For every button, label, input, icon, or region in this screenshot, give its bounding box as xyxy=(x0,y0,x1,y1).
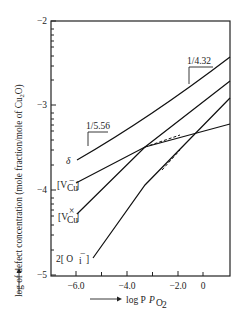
svg-text:]: ] xyxy=(76,180,79,190)
label-oi: 2[ O − i ] xyxy=(56,249,89,266)
x-axis-ticks xyxy=(76,271,203,276)
svg-text:log P: log P xyxy=(126,295,146,305)
label-vcu-charged: [V − Cu ] xyxy=(57,176,79,193)
svg-text:]: ] xyxy=(76,212,79,222)
x-tick-label: −2.0 xyxy=(169,281,186,291)
y-tick-label: −5 xyxy=(37,270,47,280)
y-axis-ticks xyxy=(51,21,56,275)
y-axis-label: log of defect concentration (mole fracti… xyxy=(14,84,25,297)
x-tick-label: 0 xyxy=(201,281,206,291)
dashed-oi xyxy=(162,150,180,170)
svg-text:2[ O: 2[ O xyxy=(56,254,73,264)
dashed-upper xyxy=(145,135,180,147)
x-tick-label: −6.0 xyxy=(67,281,84,291)
slope-triangle-high xyxy=(189,67,213,84)
x-axis-label: log P P O 2 xyxy=(90,295,167,310)
x-tick-label: −4.0 xyxy=(118,281,135,291)
defect-concentration-chart: −2 −3 −4 −5 −6.0 −4.0 −2.0 0 log P P O 2… xyxy=(0,0,239,314)
series-lines xyxy=(76,57,230,258)
slope-label-low: 1/5.56 xyxy=(86,121,110,131)
label-delta: δ xyxy=(66,156,71,166)
y-tick-label: −4 xyxy=(37,185,47,195)
slope-label-high: 1/4.32 xyxy=(187,56,211,66)
svg-text:2: 2 xyxy=(162,300,167,310)
y-tick-label: −2 xyxy=(37,16,47,26)
label-vcu-neutral: [V × Cu ] xyxy=(58,206,79,225)
dashed-lines xyxy=(145,135,180,170)
line-vcu-charged xyxy=(76,124,230,183)
line-vcu-neutral xyxy=(77,81,230,214)
svg-text:i: i xyxy=(79,256,82,266)
y-tick-label: −3 xyxy=(37,100,47,110)
svg-text:[V: [V xyxy=(57,180,67,190)
svg-text:log of defect concentration (m: log of defect concentration (mole fracti… xyxy=(14,84,25,297)
svg-text:P: P xyxy=(148,295,155,305)
svg-text:]: ] xyxy=(86,254,89,264)
